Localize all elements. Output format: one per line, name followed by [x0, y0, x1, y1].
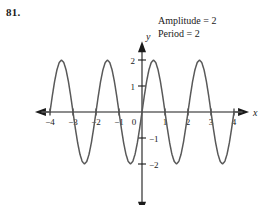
coordinate-plot: x −4−3−2−11234 y −2−112 0 [0, 0, 272, 205]
y-tick-label: −2 [149, 160, 159, 170]
figure-container: 81. Amplitude = 2 Period = 2 x −4−3−2−11… [0, 0, 272, 205]
x-tick-label: −4 [45, 117, 55, 127]
y-axis-arrow-up-icon [138, 41, 146, 52]
y-axis-label: y [145, 31, 151, 42]
y-tick-label: 1 [131, 82, 136, 92]
x-axis-group: x −4−3−2−11234 [35, 107, 258, 127]
origin-label: 0 [132, 117, 137, 127]
y-tick-label: 2 [131, 56, 136, 66]
x-axis-label: x [252, 107, 258, 118]
y-axis-arrow-down-icon [138, 202, 146, 205]
x-tick-label: −1 [114, 117, 124, 127]
y-tick-label: −1 [149, 134, 159, 144]
x-tick-label: −2 [91, 117, 101, 127]
